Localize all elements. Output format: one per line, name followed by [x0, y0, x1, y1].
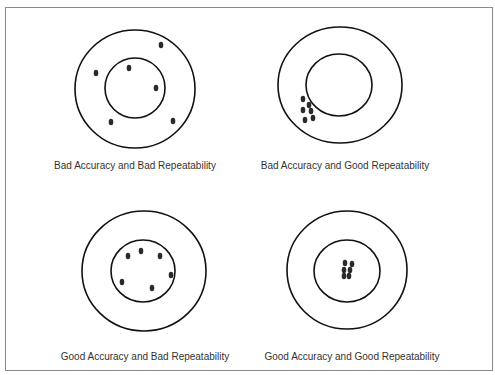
shot-dot [154, 85, 159, 91]
shot-dot [311, 115, 316, 121]
shot-dot [307, 102, 312, 108]
shot-dot [127, 65, 132, 71]
shot-dot [126, 253, 131, 259]
outer-ring [287, 211, 407, 329]
shot-dot [150, 285, 155, 291]
inner-ring [306, 54, 372, 116]
shot-dot [350, 261, 355, 267]
caption-good-accuracy-bad-repeatability: Good Accuracy and Bad Repeatability [61, 351, 229, 362]
shot-dot [169, 272, 174, 278]
shot-dot [301, 107, 306, 113]
targets-diagram [0, 0, 495, 375]
inner-ring [111, 240, 175, 302]
shot-dot [343, 260, 348, 266]
shot-dot [159, 42, 164, 48]
caption-bad-accuracy-bad-repeatability: Bad Accuracy and Bad Repeatability [54, 160, 216, 171]
caption-good-accuracy-good-repeatability: Good Accuracy and Good Repeatability [264, 351, 439, 362]
shot-dot [158, 253, 163, 259]
panel-bad-accuracy-good-repeatability [278, 27, 402, 143]
panel-good-accuracy-good-repeatability [287, 211, 407, 329]
outer-ring [75, 30, 195, 148]
shot-dot [139, 248, 144, 254]
outer-ring [278, 27, 402, 143]
inner-ring [314, 240, 380, 302]
panel-bad-accuracy-bad-repeatability [75, 30, 195, 148]
shot-dot [342, 273, 347, 279]
caption-bad-accuracy-good-repeatability: Bad Accuracy and Good Repeatability [261, 160, 429, 171]
shot-dot [309, 108, 314, 114]
shot-dot [109, 119, 114, 125]
shot-dot [342, 267, 347, 273]
shot-dot [301, 96, 306, 102]
shot-dot [348, 267, 353, 273]
shot-dot [347, 273, 352, 279]
shot-dot [171, 118, 176, 124]
outer-ring [82, 211, 206, 331]
shot-dot [303, 117, 308, 123]
panel-good-accuracy-bad-repeatability [82, 211, 206, 331]
shot-dot [94, 70, 99, 76]
shot-dot [120, 279, 125, 285]
